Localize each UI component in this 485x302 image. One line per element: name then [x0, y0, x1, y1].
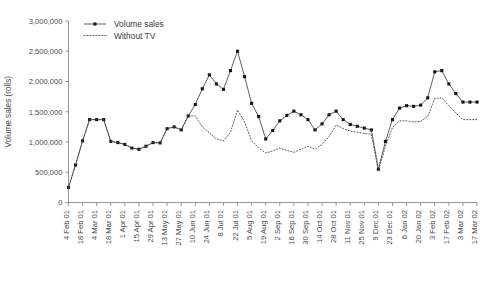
- x-tick-label: 9 Dec 01: [371, 210, 380, 240]
- volume-sales-chart: 0500,0001,000,0001,500,0002,000,0002,500…: [0, 0, 485, 302]
- data-point-marker: [321, 122, 324, 125]
- data-point-marker: [264, 137, 267, 140]
- data-series-group: [67, 50, 479, 189]
- y-tick-label: 500,000: [35, 168, 62, 177]
- data-point-marker: [461, 101, 464, 104]
- data-point-marker: [313, 128, 316, 131]
- x-tick-label: 18 Feb 01: [76, 210, 85, 244]
- data-point-marker: [419, 104, 422, 107]
- x-tick-label: 24 Jun 01: [202, 210, 211, 243]
- x-tick-label: 3 Mar 02: [456, 210, 465, 240]
- data-point-marker: [335, 110, 338, 113]
- data-point-marker: [299, 113, 302, 116]
- x-tick-label: 13 May 01: [160, 210, 169, 245]
- y-axis: 0500,0001,000,0001,500,0002,000,0002,500…: [29, 17, 69, 208]
- x-tick-label: 15 Apr 01: [132, 210, 141, 243]
- x-tick-label: 4 Feb 01: [62, 210, 71, 240]
- data-point-marker: [215, 82, 218, 85]
- data-point-marker: [468, 101, 471, 104]
- data-point-marker: [349, 123, 352, 126]
- legend-label-2: Without TV: [114, 31, 156, 41]
- data-point-marker: [306, 118, 309, 121]
- x-tick-label: 16 Sep 01: [287, 210, 296, 245]
- y-tick-label: 1,000,000: [29, 138, 63, 147]
- x-tick-label: 29 Apr 01: [146, 210, 155, 243]
- data-point-marker: [236, 50, 239, 53]
- x-tick-label: 27 May 01: [174, 210, 183, 245]
- data-point-marker: [356, 125, 359, 128]
- x-tick-label: 8 Jul 01: [216, 210, 225, 237]
- chart-legend: Volume salesWithout TV: [84, 19, 164, 40]
- x-tick-label: 1 Apr 01: [118, 210, 127, 238]
- chart-canvas: 0500,0001,000,0001,500,0002,000,0002,500…: [0, 0, 485, 302]
- data-point-marker: [271, 129, 274, 132]
- x-tick-label: 5 Aug 01: [245, 210, 254, 240]
- data-point-marker: [391, 118, 394, 121]
- x-tick-label: 17 Feb 02: [442, 210, 451, 244]
- data-point-marker: [440, 69, 443, 72]
- x-tick-label: 6 Jan 02: [400, 210, 409, 239]
- x-tick-label: 11 Nov 01: [343, 210, 352, 244]
- legend-marker: [93, 22, 96, 25]
- data-point-marker: [201, 87, 204, 90]
- data-point-marker: [447, 82, 450, 85]
- data-point-marker: [285, 114, 288, 117]
- series-line-1: [69, 51, 478, 187]
- data-point-marker: [426, 96, 429, 99]
- x-tick-label: 10 Jun 01: [188, 210, 197, 243]
- x-axis: 4 Feb 0118 Feb 014 Mar 0118 Mar 011 Apr …: [62, 203, 480, 246]
- data-point-marker: [194, 103, 197, 106]
- x-tick-label: 2 Sep 01: [273, 210, 282, 240]
- series-line-2: [69, 98, 478, 188]
- x-tick-label: 18 Mar 01: [104, 210, 113, 244]
- x-tick-label: 25 Nov 01: [357, 210, 366, 245]
- data-point-marker: [278, 119, 281, 122]
- data-point-marker: [475, 101, 478, 104]
- data-point-marker: [208, 73, 211, 76]
- data-point-marker: [370, 128, 373, 131]
- data-point-marker: [229, 69, 232, 72]
- x-tick-label: 3 Feb 02: [428, 210, 437, 240]
- x-tick-label: 20 Jan 02: [414, 210, 423, 243]
- y-tick-label: 0: [58, 198, 62, 207]
- data-point-marker: [250, 102, 253, 105]
- data-point-marker: [405, 104, 408, 107]
- data-point-marker: [328, 113, 331, 116]
- data-point-marker: [243, 75, 246, 78]
- data-point-marker: [398, 107, 401, 110]
- x-tick-label: 17 Mar 02: [470, 210, 479, 244]
- data-point-marker: [222, 88, 225, 91]
- data-point-marker: [363, 127, 366, 130]
- y-tick-label: 1,500,000: [29, 108, 63, 117]
- x-tick-label: 14 Oct 01: [315, 210, 324, 243]
- data-point-marker: [454, 92, 457, 95]
- data-point-marker: [433, 70, 436, 73]
- y-tick-label: 2,500,000: [29, 47, 63, 56]
- x-tick-label: 19 Aug 01: [259, 210, 268, 244]
- data-point-marker: [292, 110, 295, 113]
- y-tick-label: 3,000,000: [29, 17, 63, 26]
- x-tick-label: 4 Mar 01: [90, 210, 99, 240]
- y-tick-label: 2,000,000: [29, 77, 63, 86]
- legend-label-1: Volume sales: [114, 19, 164, 29]
- x-tick-label: 30 Sep 01: [301, 210, 310, 245]
- x-tick-label: 28 Oct 01: [329, 210, 338, 243]
- y-axis-title-text: Volume sales (rolls): [4, 76, 13, 148]
- data-point-marker: [342, 118, 345, 121]
- data-point-marker: [412, 105, 415, 108]
- data-point-marker: [257, 115, 260, 118]
- x-tick-label: 22 Jul 01: [231, 210, 240, 241]
- y-axis-title: Volume sales (rolls): [4, 76, 13, 148]
- x-tick-label: 23 Dec 01: [385, 210, 394, 245]
